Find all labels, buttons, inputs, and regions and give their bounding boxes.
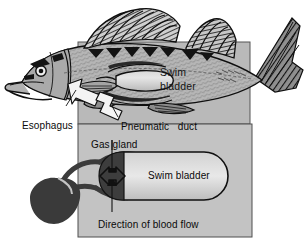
label-direction-of-blood-flow: Direction of blood flow bbox=[98, 219, 199, 230]
label-swim-bladder-fish-line1: Swim bbox=[160, 66, 186, 78]
rete-mirabile bbox=[30, 178, 80, 224]
label-gas-gland: Gas gland bbox=[91, 139, 138, 150]
label-pneumatic-duct: Pneumatic duct bbox=[121, 121, 197, 132]
fish-head bbox=[22, 49, 71, 100]
caudal-fin bbox=[255, 18, 303, 92]
label-esophagus: Esophagus bbox=[22, 120, 73, 131]
fish-eye-pupil bbox=[39, 69, 44, 74]
label-swim-bladder-detail: Swim bladder bbox=[148, 170, 210, 181]
swim-bladder-figure: Swim bladder Esophagus Pneumatic duct Ga… bbox=[0, 0, 305, 247]
label-swim-bladder-fish-line2: bladder bbox=[160, 80, 196, 92]
fish-illustration bbox=[5, 9, 303, 114]
